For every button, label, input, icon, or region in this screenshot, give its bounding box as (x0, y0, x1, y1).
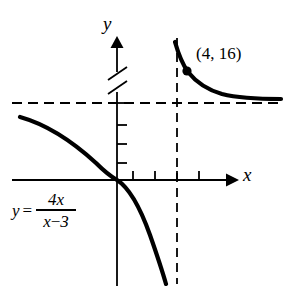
y-axis-arrowhead (111, 36, 124, 48)
graph-canvas (0, 0, 287, 286)
equation-lhs: y (12, 202, 20, 219)
equation-numerator: 4x (41, 191, 71, 209)
point-coordinate-label: (4, 16) (196, 45, 241, 62)
point-marker-4-16 (182, 66, 191, 75)
denominator-number: 3 (60, 212, 69, 231)
x-axis-label: x (243, 165, 251, 184)
equation-fraction: 4x x−3 (36, 191, 76, 230)
equation-equals-sign: = (23, 202, 33, 219)
equation-label: y = 4x x−3 (12, 191, 76, 230)
denominator-operator: − (51, 212, 61, 231)
denominator-variable: x (43, 212, 51, 231)
equation-denominator: x−3 (36, 211, 76, 230)
x-axis-arrowhead (226, 174, 239, 187)
y-axis-label: y (103, 14, 111, 33)
graph-figure: y x (4, 16) y = 4x x−3 (0, 0, 287, 286)
